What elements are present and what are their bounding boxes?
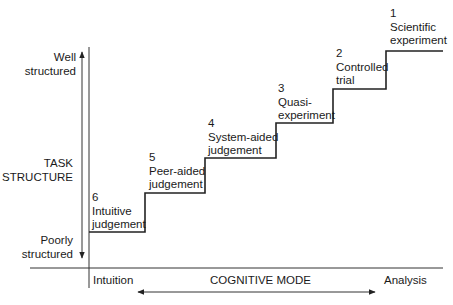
cognitive-mode-label: COGNITIVE MODE	[210, 274, 311, 288]
poorly-structured-label: Poorly structured	[22, 234, 73, 261]
step-2-label: 2Controlledtrial	[336, 47, 388, 88]
step-6-label: 6Intuitivejudgement	[92, 191, 146, 232]
step-1-label: 1Scientificexperiment	[390, 7, 447, 48]
analysis-label: Analysis	[384, 274, 427, 288]
well-structured-label: Well structured	[25, 51, 76, 78]
intuition-label: Intuition	[93, 274, 133, 288]
step-5-label: 5Peer-aidedjudgement	[149, 151, 205, 192]
task-structure-label: TASK STRUCTURE	[2, 157, 73, 184]
step-3-label: 3Quasi-experiment	[278, 82, 335, 123]
step-4-label: 4System-aidedjudgement	[208, 117, 278, 158]
